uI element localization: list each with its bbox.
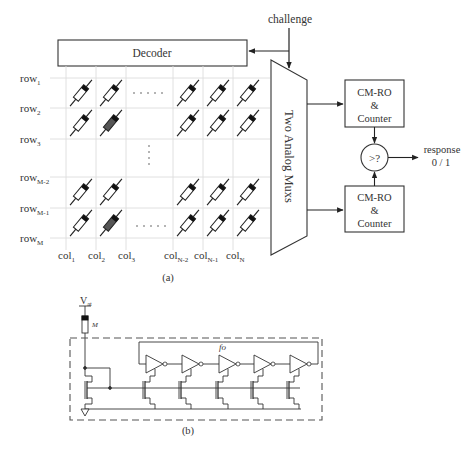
cell-r1-c1: [68, 78, 95, 108]
row-label-3: row3: [20, 133, 41, 148]
row-label-m: rowM: [20, 232, 44, 247]
comparator-label: >?: [369, 152, 380, 164]
cell-r2-cn: [235, 108, 262, 138]
cell-r2-c1: [68, 108, 95, 138]
row-label-m-2: rowM-2: [20, 171, 50, 186]
row-label-1: row1: [20, 72, 41, 87]
cell-r1-c2: [98, 78, 125, 108]
figure-b: Vat M fo: [70, 295, 322, 437]
caption-a: (a): [162, 272, 174, 284]
response-label: response: [424, 144, 461, 155]
row-label-m-1: rowM-1: [20, 202, 50, 217]
current-source-transistors: [143, 369, 299, 409]
ellipsis-marks: [133, 92, 166, 227]
challenge-label: challenge: [268, 13, 312, 26]
cell-r1-cn2: [175, 78, 202, 108]
counter-bottom-line2: &: [370, 205, 378, 216]
mirror-transistor-ref: [85, 376, 92, 404]
cell-rm-cn1: [205, 208, 232, 238]
oscillator-enclosure: [70, 338, 322, 420]
crossbar-cells: [68, 78, 262, 238]
cell-rm-cn: [235, 208, 262, 238]
cell-rm1-c2: [98, 177, 125, 207]
cell-rm-c1: [68, 208, 95, 238]
inverter-2: [182, 355, 203, 373]
col-label-n-1: colN-1: [194, 249, 219, 264]
figure-a: challenge Decoder row1 row2 row3 rowM-2: [20, 13, 461, 284]
mux-label: Two Analog Muxs: [282, 110, 296, 203]
cell-r1-cn: [235, 78, 262, 108]
device-label: M: [91, 321, 99, 329]
inverter-1: [146, 355, 167, 373]
cell-rm-c2-selected: [98, 208, 125, 238]
col-label-1: col1: [58, 249, 75, 264]
counter-top-line3: Counter: [358, 113, 392, 124]
cell-rm1-cn2: [175, 177, 202, 207]
cell-rm-cn2: [175, 208, 202, 238]
supply-label: Vat: [80, 295, 92, 307]
col-label-2: col2: [88, 249, 105, 264]
ground-icon: [81, 409, 89, 416]
counter-top-line1: CM-RO: [357, 87, 392, 98]
response-values: 0 / 1: [432, 157, 451, 168]
counter-bottom-line1: CM-RO: [357, 192, 392, 203]
cell-rm1-cn1: [205, 177, 232, 207]
inverter-4: [254, 355, 275, 373]
cell-r2-c2-selected: [98, 108, 125, 138]
row-labels: row1 row2 row3 rowM-2 rowM-1 rowM: [20, 72, 50, 247]
caption-b: (b): [182, 425, 195, 437]
puf-architecture-figure: challenge Decoder row1 row2 row3 rowM-2: [0, 0, 469, 452]
col-label-n-2: colN-2: [164, 249, 189, 264]
oscillator-label: fo: [219, 342, 227, 352]
col-label-n: colN: [226, 249, 245, 264]
cell-rm1-c1: [68, 177, 95, 207]
cell-r2-cn2: [175, 108, 202, 138]
row-label-2: row2: [20, 102, 41, 117]
counter-bottom-line3: Counter: [358, 218, 392, 229]
col-label-3: col3: [118, 249, 135, 264]
counter-top-line2: &: [370, 100, 378, 111]
inverter-3: [219, 355, 240, 373]
cell-r2-cn1: [205, 108, 232, 138]
cell-rm1-cn: [235, 177, 262, 207]
decoder-label: Decoder: [133, 47, 172, 59]
inverter-5: [290, 355, 311, 373]
cell-r1-cn1: [205, 78, 232, 108]
col-labels: col1 col2 col3 colN-2 colN-1 colN: [58, 249, 245, 264]
